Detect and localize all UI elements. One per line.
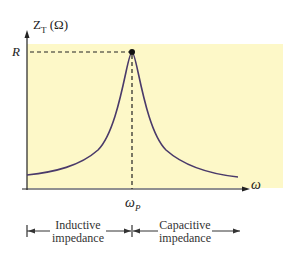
capacitive-line2: impedance (156, 232, 214, 245)
peak-point (129, 49, 135, 55)
peak-value-label: R (12, 44, 20, 60)
x-axis-label: ω (251, 177, 261, 193)
peak-frequency-subscript: P (135, 203, 141, 213)
y-axis-symbol: Z (33, 17, 41, 32)
arrow-left-icon (28, 229, 35, 234)
inductive-region-label: Inductive impedance (50, 219, 106, 245)
inductive-line2: impedance (50, 232, 106, 245)
y-axis-label: ZT (Ω) (33, 17, 68, 35)
plot-background (27, 44, 283, 188)
arrow-right-icon (124, 229, 131, 234)
y-axis-subscript: T (41, 25, 47, 35)
arrow-right-icon (233, 229, 240, 234)
impedance-plot (0, 0, 288, 255)
peak-frequency-symbol: ω (125, 195, 135, 210)
peak-frequency-label: ωP (125, 195, 140, 213)
y-axis-arrow-icon (25, 30, 30, 38)
y-axis-unit: (Ω) (50, 17, 68, 32)
capacitive-region-label: Capacitive impedance (156, 219, 214, 245)
